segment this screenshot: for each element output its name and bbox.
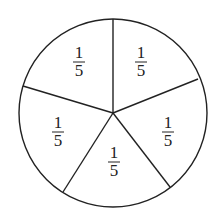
numerator: 1 [75,43,84,62]
denominator: 5 [54,131,63,150]
pie-diagram: 1 5 1 5 1 5 1 5 1 5 [0,0,213,221]
denominator: 5 [75,61,84,80]
sector-label-top-left: 1 5 [73,43,85,80]
sector-label-top-right: 1 5 [135,43,147,80]
sector-label-right: 1 5 [162,113,174,150]
sector-label-left: 1 5 [52,113,64,150]
numerator: 1 [137,43,146,62]
denominator: 5 [110,161,119,180]
numerator: 1 [110,143,119,162]
numerator: 1 [54,113,63,132]
denominator: 5 [164,131,173,150]
sector-label-bottom: 1 5 [108,143,120,180]
numerator: 1 [164,113,173,132]
denominator: 5 [137,61,146,80]
